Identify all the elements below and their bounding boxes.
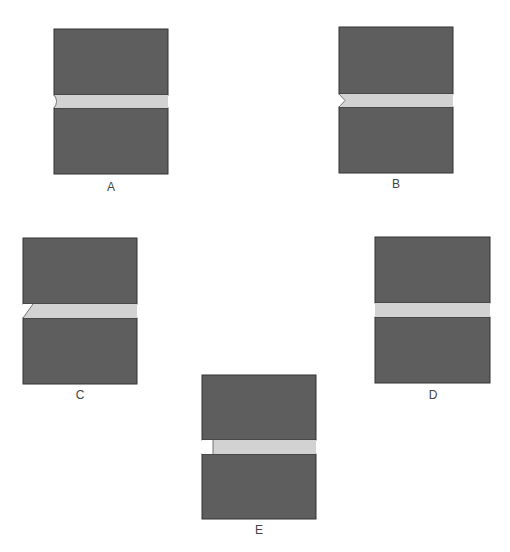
panel-label-d: D [423,388,443,402]
panel-a [54,29,169,175]
joint-diagram-v-notch [339,27,454,174]
panel-b [339,27,454,174]
panel-d [375,237,491,384]
joint-diagram-flush [375,237,491,384]
panel-label-a: A [101,180,121,194]
joint-diagram-recessed [202,375,317,520]
panel-label-e: E [249,523,269,537]
panel-c [23,238,138,385]
panel-label-c: C [70,388,90,402]
panel-label-b: B [386,177,406,191]
joint-diagram-concave [54,29,169,175]
panel-e [202,375,317,520]
joint-diagram-beveled [23,238,138,385]
